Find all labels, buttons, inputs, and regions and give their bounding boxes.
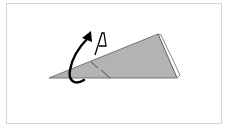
origami-diagram [0, 0, 228, 130]
diagram-frame: A [0, 0, 228, 130]
